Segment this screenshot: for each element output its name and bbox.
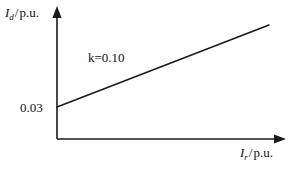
- restraint-characteristic-line: [57, 25, 269, 107]
- x-axis-arrow-icon: [274, 134, 286, 143]
- x-axis-unit: p.u.: [253, 145, 273, 160]
- characteristic-curve-figure: Id/p.u. Ir/p.u. 0.03 k=0.10: [0, 0, 297, 173]
- y-intercept-tick-label: 0.03: [20, 101, 43, 114]
- y-axis-unit: p.u.: [19, 5, 39, 20]
- x-axis-label: Ir/p.u.: [240, 146, 273, 162]
- slope-annotation-label: k=0.10: [88, 51, 125, 64]
- y-axis-arrow-icon: [52, 6, 61, 18]
- y-axis-label: Id/p.u.: [5, 6, 39, 22]
